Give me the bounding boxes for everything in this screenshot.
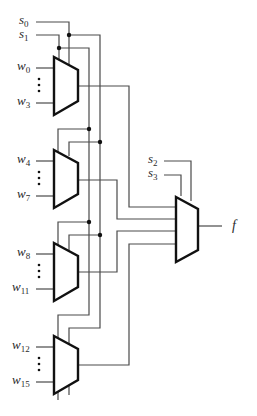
label-w8: w8 (17, 245, 30, 261)
mux-final-body (176, 197, 198, 262)
wire-mux2-s1 (58, 129, 89, 152)
junction-dot (98, 140, 102, 144)
label-w0: w0 (17, 59, 30, 75)
wire-mux2-out (78, 180, 176, 219)
wire-mux3-s1 (58, 222, 89, 246)
junction-dot (98, 233, 102, 237)
junction-dot (67, 33, 71, 37)
wire-s2 (164, 161, 191, 201)
mux-4-body (54, 336, 78, 394)
wire-mux3-out (78, 231, 176, 272)
label-s3: s3 (148, 166, 158, 182)
wire-mux1-out (78, 86, 176, 207)
label-output-f: f (232, 219, 236, 233)
junction-dot (87, 220, 91, 224)
label-w15: w15 (12, 373, 30, 389)
label-s1: s1 (19, 27, 29, 43)
wire-mux3-s0 (69, 235, 100, 250)
mux-2-body (54, 150, 78, 208)
label-w7: w7 (17, 187, 30, 203)
label-w12: w12 (12, 338, 30, 354)
wire-mux4-out (78, 244, 176, 365)
wire-mux2-s0 (69, 142, 100, 156)
junction-dot (57, 46, 61, 50)
wire-s3 (164, 175, 181, 196)
label-w4: w4 (17, 152, 30, 168)
mux-3-body (54, 243, 78, 301)
label-w11: w11 (12, 280, 29, 296)
circuit-wiring (0, 0, 257, 416)
wire-s0 (36, 22, 69, 65)
multiplexer-diagram: s0 s1 s2 s3 w0 w3 w4 w7 w8 w11 w12 w15 f (0, 0, 257, 416)
label-w3: w3 (17, 94, 30, 110)
mux-1-body (54, 57, 78, 115)
junction-dot (87, 127, 91, 131)
